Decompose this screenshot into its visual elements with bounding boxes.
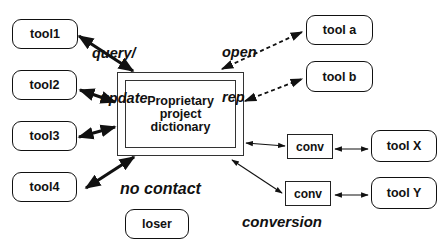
- tool-x-label: tool X: [387, 139, 422, 153]
- tool4-node[interactable]: tool4: [12, 172, 77, 202]
- query-update-annotation: query/ update: [92, 16, 148, 121]
- tool2-label: tool2: [30, 78, 60, 92]
- tool-b-label: tool b: [322, 70, 356, 84]
- tool-x-node[interactable]: tool X: [371, 130, 437, 162]
- loser-label: loser: [142, 217, 172, 231]
- tool1-label: tool1: [30, 27, 60, 41]
- converter-y-label: conv: [294, 187, 322, 201]
- converter-x-box[interactable]: conv: [287, 134, 333, 159]
- tool1-node[interactable]: tool1: [12, 19, 78, 49]
- tool-a-node[interactable]: tool a: [306, 15, 373, 45]
- tool-y-label: tool Y: [387, 186, 422, 200]
- tool-a-label: tool a: [323, 23, 356, 37]
- tool3-label: tool3: [30, 129, 60, 143]
- tool4-label: tool4: [30, 180, 60, 194]
- conversion-annotation: conversion: [242, 214, 322, 229]
- converter-x-label: conv: [296, 140, 324, 154]
- open-rep-annotation: open rep: [222, 15, 257, 120]
- tool2-node[interactable]: tool2: [12, 70, 77, 100]
- tool3-node[interactable]: tool3: [12, 121, 77, 151]
- converter-y-box[interactable]: conv: [285, 181, 331, 206]
- central-label: Proprietary project dictionary: [147, 95, 214, 134]
- loser-node[interactable]: loser: [125, 209, 189, 239]
- no-contact-annotation: no contact: [120, 181, 201, 196]
- tool-b-node[interactable]: tool b: [306, 61, 373, 92]
- tool-y-node[interactable]: tool Y: [371, 177, 437, 209]
